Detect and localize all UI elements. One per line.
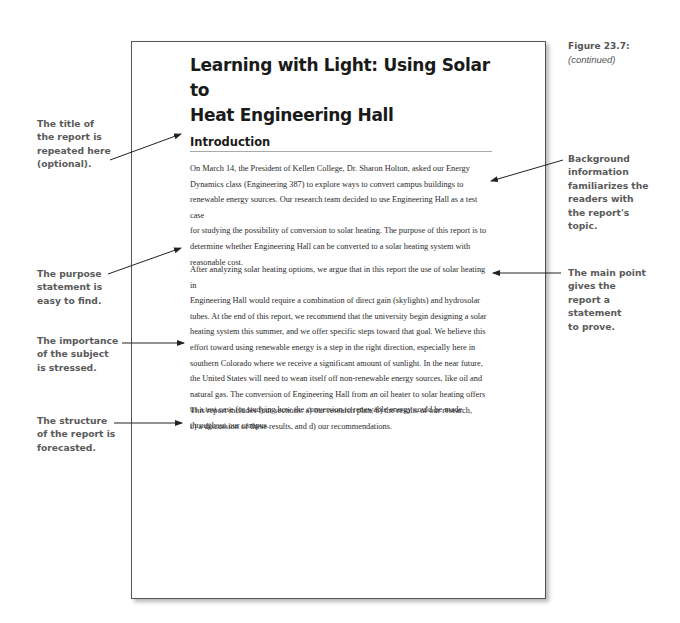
annotation-line: is stressed. bbox=[37, 361, 118, 374]
report-title: Learning with Light: Using Solar to Heat… bbox=[190, 53, 490, 128]
annotation-line: Background bbox=[568, 152, 649, 165]
annotation-line: statement bbox=[568, 306, 646, 319]
figure-caption: Figure 23.7: (continued) bbox=[568, 40, 630, 66]
text-line: After analyzing solar heating options, w… bbox=[190, 262, 490, 293]
annotation-line: The structure bbox=[37, 414, 115, 427]
annotation-line: of the subject bbox=[37, 347, 118, 360]
annotation-structure: The structure of the report is forecaste… bbox=[37, 414, 115, 454]
text-line: Engineering Hall would require a combina… bbox=[190, 293, 490, 309]
report-page: Learning with Light: Using Solar to Heat… bbox=[131, 41, 546, 599]
annotation-line: (optional). bbox=[37, 157, 111, 170]
annotation-line: The title of bbox=[37, 117, 111, 130]
annotation-line: The purpose bbox=[37, 267, 102, 280]
annotation-line: readers with bbox=[568, 192, 649, 205]
annotation-line: gives the bbox=[568, 279, 646, 292]
text-line: This report includes four sections: a) o… bbox=[190, 403, 490, 419]
annotation-line: topic. bbox=[568, 219, 649, 232]
text-line: southern Colorado where we receive a sig… bbox=[190, 356, 490, 372]
text-line: On March 14, the President of Kellen Col… bbox=[190, 161, 490, 177]
figure-continued-label: (continued) bbox=[568, 53, 630, 66]
text-line: determine whether Engineering Hall can b… bbox=[190, 239, 490, 255]
annotation-line: forecasted. bbox=[37, 441, 115, 454]
report-title-line: Learning with Light: Using Solar to bbox=[190, 53, 490, 103]
background-paragraph: On March 14, the President of Kellen Col… bbox=[190, 161, 490, 270]
text-line: tubes. At the end of this report, we rec… bbox=[190, 309, 490, 325]
text-line: Dynamics class (Engineering 387) to expl… bbox=[190, 177, 490, 193]
annotation-line: of the report is bbox=[37, 427, 115, 440]
annotation-line: the report's bbox=[568, 206, 649, 219]
introduction-heading: Introduction bbox=[190, 135, 492, 152]
report-title-line: Heat Engineering Hall bbox=[190, 103, 490, 128]
annotation-line: The main point bbox=[568, 266, 646, 279]
annotation-line: to prove. bbox=[568, 320, 646, 333]
text-line: effort toward using renewable energy is … bbox=[190, 340, 490, 356]
text-line: c) a discussion of these results, and d)… bbox=[190, 419, 490, 435]
annotation-line: easy to find. bbox=[37, 294, 102, 307]
annotation-line: the report is bbox=[37, 130, 111, 143]
text-line: for studying the possibility of conversi… bbox=[190, 223, 490, 239]
annotation-title-repeated: The title of the report is repeated here… bbox=[37, 117, 111, 171]
text-line: renewable energy sources. Our research t… bbox=[190, 192, 490, 223]
text-line: heating system this summer, and we offer… bbox=[190, 324, 490, 340]
text-line: natural gas. The conversion of Engineeri… bbox=[190, 387, 490, 403]
annotation-background: Background information familiarizes the … bbox=[568, 152, 649, 232]
text-line: the United States will need to wean itse… bbox=[190, 371, 490, 387]
annotation-line: report a bbox=[568, 293, 646, 306]
annotation-line: statement is bbox=[37, 280, 102, 293]
structure-paragraph: This report includes four sections: a) o… bbox=[190, 403, 490, 434]
annotation-main-point: The main point gives the report a statem… bbox=[568, 266, 646, 333]
annotation-line: repeated here bbox=[37, 144, 111, 157]
annotation-purpose-statement: The purpose statement is easy to find. bbox=[37, 267, 102, 307]
annotation-importance: The importance of the subject is stresse… bbox=[37, 334, 118, 374]
figure-number: Figure 23.7: bbox=[568, 40, 630, 53]
annotation-line: information bbox=[568, 165, 649, 178]
annotation-line: familiarizes the bbox=[568, 179, 649, 192]
annotation-line: The importance bbox=[37, 334, 118, 347]
